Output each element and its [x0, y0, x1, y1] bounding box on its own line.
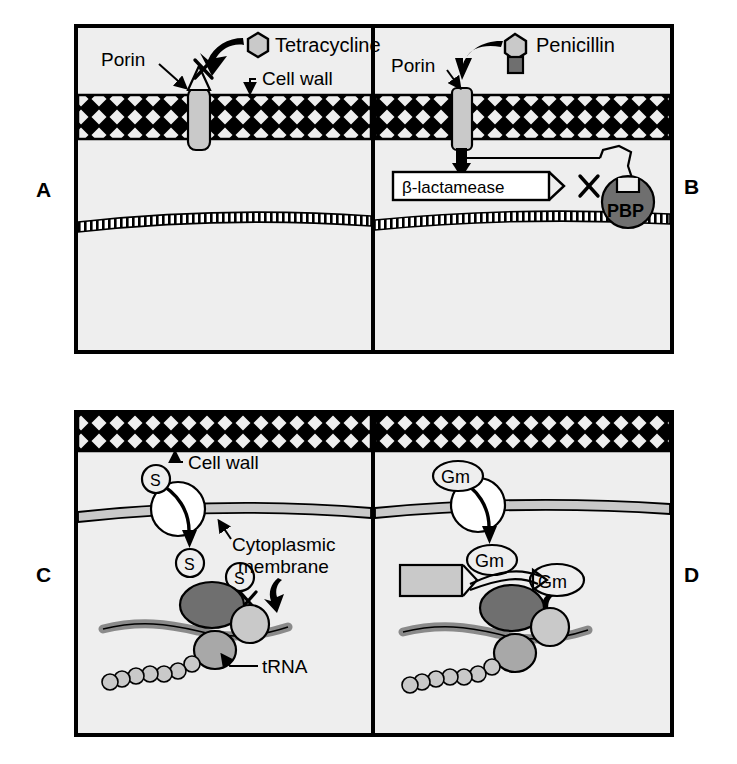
- ribosome-small-subunit-c: [231, 605, 269, 643]
- penicillin-tail: [508, 57, 523, 73]
- drug-molecule-gm-inside-label: Gm: [475, 551, 504, 571]
- penicillin-label: Penicillin: [536, 34, 615, 56]
- ribosome-small-subunit-d: [531, 608, 569, 646]
- cell-wall-band-d: [375, 414, 670, 451]
- cell-wall-band-a: [78, 95, 371, 139]
- beta-lactamease-enzyme: β-lactamease: [393, 172, 564, 200]
- trna-label-c: tRNA: [262, 656, 308, 677]
- cell-wall-label-a: Cell wall: [262, 68, 333, 89]
- porin-channel-b: [452, 88, 472, 150]
- drug-molecule-s-inside-label: S: [184, 556, 195, 573]
- panel-letter-b: B: [684, 175, 699, 199]
- cell-wall-band-c: [78, 414, 371, 451]
- porin-label-a: Porin: [101, 49, 145, 70]
- pbp-binding-notch: [617, 178, 639, 192]
- drug-molecule-s-inside: S: [176, 549, 204, 577]
- drug-molecule-s-outside-label: S: [150, 472, 161, 489]
- cytoplasmic-membrane-label-line2-c: membrane: [238, 556, 329, 577]
- panel-letter-a: A: [36, 178, 51, 202]
- panel-letter-d: D: [684, 563, 699, 587]
- pbp-label: PBP: [607, 201, 644, 221]
- drug-molecule-gm-outside-label: Gm: [441, 467, 470, 487]
- bottom-row-group: S S S: [76, 412, 672, 735]
- cytoplasmic-membrane-label-line1-c: Cytoplasmic: [232, 534, 335, 555]
- beta-lactamease-label: β-lactamease: [402, 178, 504, 197]
- drug-molecule-gm-modified: Gm: [530, 564, 584, 596]
- modifying-enzyme-box: [400, 565, 462, 596]
- drug-molecule-gm-outside: Gm: [433, 461, 483, 491]
- pbp-target: PBP: [602, 176, 654, 228]
- tetracycline-label: Tetracycline: [275, 34, 381, 56]
- top-row-group: Porin Tetracycline Cell wall: [76, 26, 672, 352]
- cell-wall-label-c: Cell wall: [188, 452, 259, 473]
- drug-molecule-gm-inside: Gm: [467, 545, 517, 575]
- cell-wall-band-b: [375, 95, 670, 139]
- porin-label-b: Porin: [391, 55, 435, 76]
- drug-molecule-s-outside: S: [142, 465, 170, 493]
- porin-body-a: [188, 88, 210, 150]
- diagram-svg: Porin Tetracycline Cell wall: [0, 0, 737, 764]
- penicillin-molecule-icon: [505, 34, 526, 73]
- panel-letter-c: C: [36, 563, 51, 587]
- figure-canvas: A B C D: [0, 0, 737, 764]
- tetracycline-molecule-icon: [248, 33, 268, 57]
